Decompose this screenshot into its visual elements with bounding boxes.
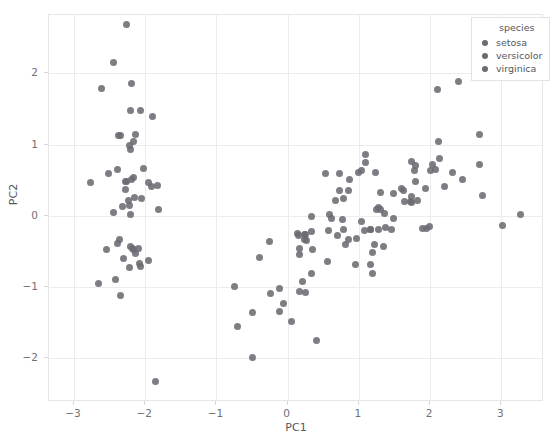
legend-entry-label: versicolor: [496, 49, 542, 62]
legend-title: species: [499, 22, 544, 34]
data-point: [476, 161, 483, 168]
data-point: [145, 179, 152, 186]
gridline-horizontal: [49, 145, 542, 146]
data-point: [377, 189, 384, 196]
data-point: [367, 226, 374, 233]
data-point: [266, 238, 273, 245]
data-point: [120, 255, 127, 262]
data-point: [517, 211, 524, 218]
legend-entry: virginica: [477, 62, 544, 75]
data-point: [249, 354, 256, 361]
gridline-horizontal: [49, 216, 542, 217]
data-point: [256, 254, 263, 261]
data-point: [103, 246, 110, 253]
data-point: [412, 178, 419, 185]
data-point: [105, 170, 112, 177]
data-point: [449, 169, 456, 176]
data-point: [276, 308, 283, 315]
data-point: [288, 318, 295, 325]
data-point: [362, 159, 369, 166]
data-point: [137, 107, 144, 114]
x-tick-label: 2: [409, 407, 449, 419]
data-point: [334, 232, 341, 239]
data-point: [87, 179, 94, 186]
scatter-plot-figure: −3−2−10123−2−1012 PC1 PC2 species setosa…: [0, 0, 558, 444]
y-tick-label: −2: [12, 351, 38, 363]
data-point: [358, 218, 365, 225]
data-point: [110, 209, 117, 216]
y-axis-label: PC2: [7, 160, 20, 230]
data-point: [436, 155, 443, 162]
data-point: [422, 185, 429, 192]
data-point: [345, 187, 352, 194]
data-point: [114, 240, 121, 247]
data-point: [127, 107, 134, 114]
data-point: [234, 323, 241, 330]
data-point: [346, 176, 353, 183]
data-point: [280, 300, 287, 307]
x-tick-mark: [215, 401, 216, 405]
data-point: [369, 249, 376, 256]
data-point: [353, 235, 360, 242]
legend-entry: setosa: [477, 36, 544, 49]
x-tick-label: −2: [124, 407, 164, 419]
data-point: [332, 197, 339, 204]
data-point: [390, 215, 397, 222]
data-point: [126, 264, 133, 271]
data-point: [114, 166, 121, 173]
data-point: [322, 170, 329, 177]
y-tick-mark: [44, 357, 48, 358]
data-point: [336, 170, 343, 177]
data-point: [137, 263, 144, 270]
y-tick-mark: [44, 286, 48, 287]
data-point: [117, 292, 124, 299]
x-tick-label: 1: [338, 407, 378, 419]
y-tick-label: 1: [12, 138, 38, 150]
data-point: [112, 276, 119, 283]
legend-entry-label: virginica: [496, 62, 536, 75]
data-point: [130, 174, 137, 181]
legend-entries: setosaversicolorvirginica: [477, 36, 544, 75]
gridline-horizontal: [49, 73, 542, 74]
y-tick-mark: [44, 72, 48, 73]
data-point: [122, 186, 129, 193]
y-tick-label: −1: [12, 280, 38, 292]
x-axis-label-text: PC1: [285, 421, 306, 434]
gridline-horizontal: [49, 287, 542, 288]
data-point: [358, 167, 365, 174]
data-point: [479, 192, 486, 199]
data-point: [308, 228, 315, 235]
y-tick-mark: [44, 215, 48, 216]
x-tick-label: −3: [53, 407, 93, 419]
x-tick-mark: [287, 401, 288, 405]
data-point: [372, 169, 379, 176]
data-point: [309, 246, 316, 253]
y-tick-mark: [44, 144, 48, 145]
data-point: [375, 226, 382, 233]
data-point: [123, 21, 130, 28]
data-point: [131, 194, 138, 201]
data-point: [476, 131, 483, 138]
data-point: [138, 195, 145, 202]
data-point: [303, 237, 310, 244]
data-point: [313, 337, 320, 344]
data-point: [362, 151, 369, 158]
x-tick-mark: [500, 401, 501, 405]
data-point: [152, 378, 159, 385]
data-point: [308, 270, 315, 277]
data-point: [352, 261, 359, 268]
data-point: [135, 245, 142, 252]
data-point: [267, 290, 274, 297]
legend-marker-icon: [482, 40, 488, 46]
data-point: [340, 226, 347, 233]
data-point: [140, 165, 147, 172]
data-point: [126, 142, 133, 149]
x-tick-mark: [73, 401, 74, 405]
data-point: [426, 223, 433, 230]
x-tick-label: 0: [267, 407, 307, 419]
data-point: [400, 187, 407, 194]
gridline-horizontal: [49, 358, 542, 359]
legend: species setosaversicolorvirginica: [471, 17, 550, 81]
data-point: [380, 243, 387, 250]
legend-marker-icon: [482, 53, 488, 59]
